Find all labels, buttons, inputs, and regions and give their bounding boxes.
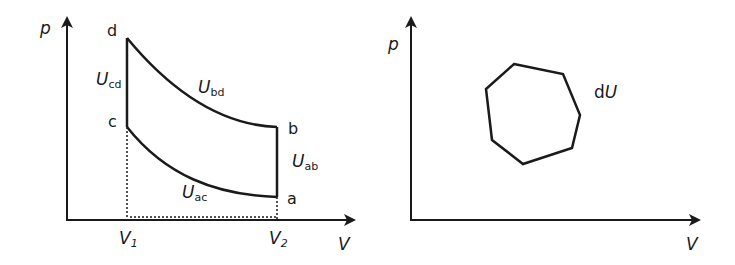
v2-tick-label: V2 <box>269 228 288 250</box>
du-label: dU <box>594 82 618 102</box>
right-y-axis-label: p <box>387 34 399 54</box>
uac-label: Uac <box>182 182 207 204</box>
left-pv-diagram: p V d c b a Ucd Ubd Uab Uac V1 V2 <box>39 16 356 254</box>
right-pv-diagram: p V dU <box>387 16 701 254</box>
ubd-label: Ubd <box>198 77 224 99</box>
point-a-label: a <box>287 189 297 208</box>
uab-label: Uab <box>292 151 318 173</box>
point-b-label: b <box>288 119 298 138</box>
ucd-label: Ucd <box>96 69 121 91</box>
diagram-canvas: p V d c b a Ucd Ubd Uab Uac V1 V2 p V dU <box>0 0 735 265</box>
left-y-axis-label: p <box>39 18 51 38</box>
left-x-axis-label: V <box>338 234 351 254</box>
v1-tick-label: V1 <box>119 228 138 250</box>
right-x-axis-label: V <box>686 234 699 254</box>
cyclic-process-heptagon <box>486 64 580 164</box>
path-ac <box>127 127 277 197</box>
point-c-label: c <box>108 112 117 131</box>
point-d-label: d <box>107 21 117 40</box>
